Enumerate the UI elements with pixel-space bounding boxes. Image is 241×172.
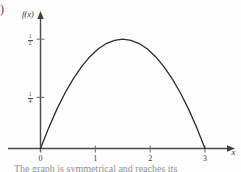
x-tick-label-1: 1 bbox=[93, 154, 97, 163]
y-axis-label: f(x) bbox=[22, 9, 34, 19]
x-tick-label-2: 2 bbox=[148, 154, 152, 163]
clipped-caption-text: The graph is symmetrical and reaches its bbox=[14, 163, 229, 172]
x-axis-label: x bbox=[231, 147, 236, 157]
plot-canvas: f(x) x 0 1 2 3 bbox=[0, 0, 241, 172]
y-axis-arrowhead bbox=[37, 11, 43, 19]
y-tick-label-quarter: 1 4 bbox=[23, 92, 37, 105]
x-tick-label-3: 3 bbox=[203, 154, 207, 163]
y-tick-label-half: 1 2 bbox=[23, 34, 37, 47]
function-plot-figure: ) f(x) x 0 1 2 3 1 2 1 4 Th bbox=[0, 0, 241, 172]
x-tick-label-0: 0 bbox=[39, 154, 43, 163]
function-curve bbox=[41, 39, 206, 148]
